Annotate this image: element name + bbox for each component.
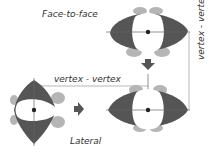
face-to-face-shape: [106, 7, 190, 57]
lateral-shape: [10, 78, 65, 146]
vertex-vertex-shape: [106, 85, 190, 132]
face-to-face-label: Face-to-face: [42, 9, 98, 19]
right-arrow-icon: [74, 102, 84, 116]
down-arrow-icon: [141, 59, 155, 70]
vertex-vertex-horizontal-label: vertex - vertex: [54, 74, 121, 84]
vertex-vertex-vertical-label: vertex - vertex: [196, 0, 206, 60]
lateral-label: Lateral: [70, 136, 101, 146]
